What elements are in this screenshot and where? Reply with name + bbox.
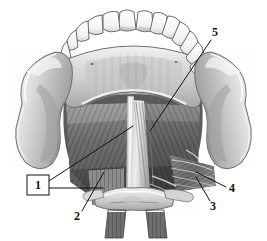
foramen-mark (175, 61, 178, 63)
label-2-text: 2 (74, 209, 80, 223)
mandibular-ramus-right (191, 50, 255, 169)
label-5-text: 5 (212, 25, 218, 39)
figure-illustration: 1 2 3 4 5 (0, 0, 267, 241)
label-1[interactable]: 1 (27, 175, 49, 195)
mandibular-ramus-left (12, 50, 76, 169)
mental-spine-mark (90, 63, 93, 65)
label-5[interactable]: 5 (212, 25, 218, 39)
label-3[interactable]: 3 (210, 199, 216, 213)
anatomical-figure: 1 2 3 4 5 (0, 0, 267, 241)
label-4[interactable]: 4 (229, 181, 235, 195)
label-1-text: 1 (35, 178, 41, 192)
label-3-text: 3 (210, 199, 216, 213)
label-2[interactable]: 2 (74, 209, 80, 223)
label-4-text: 4 (229, 181, 235, 195)
